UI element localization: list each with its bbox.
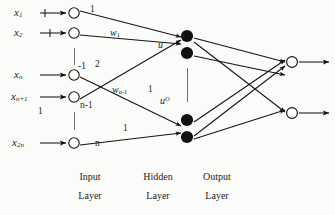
layer-caption-output-line2: Layer (194, 191, 240, 201)
output-arrows (299, 62, 329, 113)
input-to-hidden-edges (80, 11, 181, 145)
edge-label-minus-one: -1 (78, 62, 86, 72)
edge-label-u-output: uO (160, 96, 170, 106)
layer-caption-input: Input Layer (68, 172, 112, 201)
layer-caption-input-line2: Layer (68, 191, 112, 201)
node-index-n: n (95, 139, 100, 149)
input-label-x2: x2 (14, 27, 22, 39)
layer-caption-input-line1: Input (68, 172, 112, 182)
layer-caption-hidden-line1: Hidden (134, 172, 182, 182)
edge-label-lower-one: 1 (123, 124, 128, 134)
edge-label-top-one: 1 (90, 5, 95, 15)
layer-caption-hidden-line2: Layer (134, 191, 182, 201)
input-label-x2n: x2n (12, 137, 24, 149)
input-feed-arrows (40, 9, 66, 143)
edge-label-left-one: 1 (38, 107, 43, 117)
edge-label-two: 2 (95, 60, 100, 70)
edge-label-mid-one: 1 (148, 85, 153, 95)
layer-caption-output-line1: Output (194, 172, 240, 182)
node-index-n-minus-1: n-1 (80, 101, 93, 111)
input-vertical-dots-lower (74, 112, 75, 130)
layer-caption-hidden: Hidden Layer (134, 172, 182, 201)
neural-network-diagram: x1 x2 xn xn+1 x2n 1 w1 -1 2 wn-1 n-1 1 1… (0, 0, 335, 215)
hidden-to-output-edges (194, 38, 285, 139)
layer-caption-output: Output Layer (194, 172, 240, 201)
edge-label-w-n-minus-1: wn-1 (112, 85, 127, 96)
input-label-x1: x1 (14, 7, 22, 19)
edge-label-u-upper: u (158, 40, 163, 50)
input-vertical-dots-upper (74, 48, 75, 65)
edge-label-w1: w1 (110, 28, 120, 39)
input-label-xn-plus-1: xn+1 (11, 91, 28, 103)
input-label-xn: xn (14, 69, 22, 81)
output-nodes (287, 57, 298, 119)
hidden-vertical-dots (187, 68, 188, 102)
